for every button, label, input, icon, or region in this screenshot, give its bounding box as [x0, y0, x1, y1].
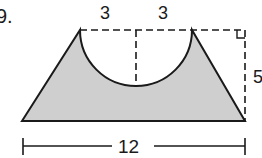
- label-height-5: 5: [253, 67, 262, 87]
- label-base-12: 12: [118, 136, 139, 157]
- problem-number: 9.: [0, 5, 13, 27]
- label-left-3: 3: [100, 3, 110, 23]
- right-angle-marker: [237, 30, 245, 38]
- shaded-region: [22, 30, 245, 121]
- figure: 9. 3 3 5 12: [0, 0, 262, 158]
- label-right-3: 3: [158, 3, 168, 23]
